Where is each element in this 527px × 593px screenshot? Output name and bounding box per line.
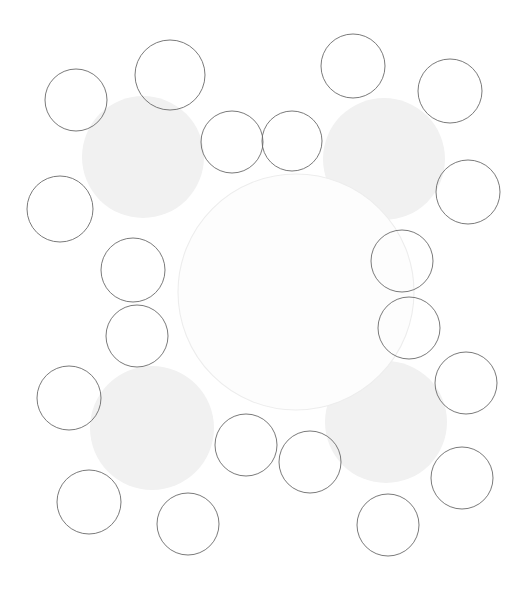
outlined-circle (135, 40, 205, 110)
outlined-circle (436, 160, 500, 224)
gray-disc (90, 366, 214, 490)
gray-disc (82, 96, 204, 218)
outlined-circle (106, 305, 168, 367)
outlined-circle (215, 414, 277, 476)
outlined-circle (418, 59, 482, 123)
outlined-circle (431, 447, 493, 509)
outlined-circle (157, 493, 219, 555)
central-circle-layer (178, 174, 414, 410)
outlined-circle (321, 34, 385, 98)
outlined-circle (45, 69, 107, 131)
circle-packing-svg (0, 0, 527, 593)
outlined-circle (37, 366, 101, 430)
outlined-circle (57, 470, 121, 534)
outlined-circle (101, 238, 165, 302)
outlined-circle (201, 111, 263, 173)
central-circle (178, 174, 414, 410)
outlined-circle (435, 352, 497, 414)
diagram-canvas (0, 0, 527, 593)
outlined-circle (357, 494, 419, 556)
outlined-circle (27, 176, 93, 242)
outlined-circle (279, 431, 341, 493)
outlined-circle (262, 111, 322, 171)
